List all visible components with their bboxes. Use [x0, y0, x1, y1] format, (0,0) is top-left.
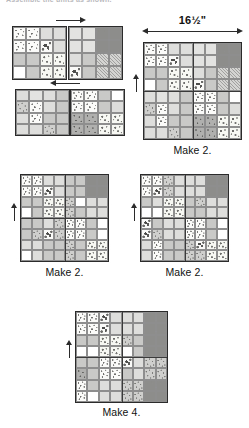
patch-med: [76, 335, 87, 346]
patch-floral2: [86, 240, 97, 251]
patch-leaf: [122, 357, 133, 368]
patch-leaf: [141, 229, 152, 240]
patch-white: [75, 197, 86, 208]
patch-spec: [65, 250, 76, 261]
patch-floral2: [174, 207, 185, 218]
patch-floral: [76, 312, 87, 323]
patch-med: [43, 250, 54, 261]
patch-med: [180, 91, 192, 103]
patch-floral2: [174, 197, 185, 208]
patch-floral2: [168, 79, 180, 91]
patch-white: [87, 391, 98, 402]
patch-dkr: [217, 55, 229, 67]
patch-floral: [99, 368, 110, 379]
patch-hatch: [152, 197, 163, 208]
patch-floral2: [43, 197, 54, 208]
patch-med: [195, 207, 206, 218]
patch-dkr: [109, 27, 122, 40]
patch-med: [56, 124, 69, 135]
patch-hatch: [97, 197, 108, 208]
patch-hatch: [174, 175, 185, 186]
patch-floral2: [163, 207, 174, 218]
patch-white: [141, 207, 152, 218]
patch-floral: [32, 175, 43, 186]
patch-hatch: [144, 91, 156, 103]
patch-hatch: [168, 43, 180, 55]
patch-floral: [75, 218, 86, 229]
patch-med: [180, 103, 192, 115]
patch-dkr: [156, 323, 167, 334]
patch-med: [75, 207, 86, 218]
patch-med: [144, 67, 156, 79]
patch-spec: [168, 127, 180, 139]
patch-dkr: [109, 40, 122, 53]
patch-floral2: [206, 240, 217, 251]
patch-hatch: [21, 240, 32, 251]
block-left-mid-grid: [21, 175, 108, 261]
patch-med: [86, 229, 97, 240]
patch-spec: [65, 240, 76, 251]
patch-med: [54, 250, 65, 261]
patch-floral2: [111, 113, 124, 124]
block-main-grid: [144, 43, 241, 139]
patch-med: [180, 115, 192, 127]
patch-spec-d: [193, 115, 205, 127]
patch-med: [21, 218, 32, 229]
patch-hatch: [53, 40, 66, 53]
patch-leaf: [43, 186, 54, 197]
patch-med: [75, 240, 86, 251]
patch-hatch: [168, 103, 180, 115]
patch-med: [205, 67, 217, 79]
patch-hatch: [110, 312, 121, 323]
patch-floral: [26, 27, 39, 40]
patch-med: [98, 90, 111, 101]
patch-dkr: [97, 186, 108, 197]
patch-floral2: [40, 66, 53, 79]
patch-floral: [13, 40, 26, 53]
patch-hatch: [29, 124, 42, 135]
patch-dkr: [217, 43, 229, 55]
patch-diag: [217, 79, 229, 91]
grainline-main: [133, 74, 140, 92]
patch-hatch: [174, 218, 185, 229]
patch-floral2: [54, 197, 65, 208]
patch-med: [75, 250, 86, 261]
patch-hatch: [69, 53, 82, 66]
patch-med: [217, 91, 229, 103]
patch-leaf: [168, 55, 180, 67]
patch-floral2: [86, 250, 97, 261]
patch-hatch: [43, 175, 54, 186]
unit-top-right-grid: [69, 27, 122, 79]
patch-floral: [71, 101, 84, 112]
patch-lt: [69, 27, 82, 40]
patch-hatch: [141, 240, 152, 251]
patch-dkr: [144, 335, 155, 346]
patch-lt: [205, 55, 217, 67]
patch-spec-d: [205, 115, 217, 127]
patch-lt: [193, 43, 205, 55]
patch-floral: [156, 43, 168, 55]
unit-bottom-strip-left-grid: [16, 90, 69, 135]
patch-floral2: [98, 113, 111, 124]
patch-med: [86, 218, 97, 229]
patch-floral: [32, 186, 43, 197]
patch-hatch: [133, 368, 144, 379]
patch-spec: [122, 335, 133, 346]
patch-floral: [156, 55, 168, 67]
patch-med: [185, 197, 196, 208]
patch-hatch: [174, 186, 185, 197]
patch-dkr: [156, 391, 167, 402]
patch-hatch: [185, 175, 196, 186]
patch-hatch: [16, 124, 29, 135]
patch-diag: [229, 67, 241, 79]
patch-med: [13, 53, 26, 66]
patch-floral: [156, 103, 168, 115]
patch-spec-d: [76, 368, 87, 379]
patch-med: [56, 101, 69, 112]
patch-dkr: [144, 323, 155, 334]
patch-lt: [69, 40, 82, 53]
patch-hatch: [156, 127, 168, 139]
patch-white: [21, 207, 32, 218]
patch-spec: [163, 186, 174, 197]
patch-diag: [109, 53, 122, 66]
